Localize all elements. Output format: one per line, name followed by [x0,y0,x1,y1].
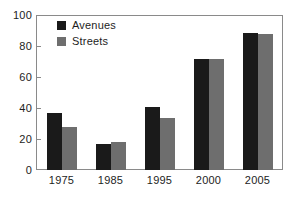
x-axis-tick-label: 1995 [140,175,180,186]
legend-label: Avenues [72,20,116,31]
bar-streets-2000 [209,59,224,170]
bar-group [135,16,184,170]
legend-swatch-icon [57,37,66,46]
bar-avenues-2000 [194,59,209,170]
y-axis-tick-mark [36,139,41,140]
legend-item: Avenues [57,19,116,32]
x-axis-tick-label: 1975 [42,175,82,186]
x-axis-tick-label: 2005 [238,175,278,186]
x-axis-tick-label: 2000 [189,175,229,186]
bar-streets-1975 [62,127,77,170]
y-axis-tick-label: 80 [0,41,32,52]
y-axis-tick-mark [36,77,41,78]
y-axis-tick-label: 0 [0,165,32,176]
chart-legend: AvenuesStreets [57,19,116,51]
y-axis-tick-label: 20 [0,134,32,145]
y-axis-tick-mark [36,15,41,16]
y-axis-tick-mark [36,108,41,109]
legend-label: Streets [72,36,108,47]
bar-group [233,16,282,170]
y-axis-tick-label: 100 [0,10,32,21]
bar-streets-1995 [160,118,175,170]
y-axis-tick-label: 60 [0,72,32,83]
x-axis-tick-label: 1985 [91,175,131,186]
bar-avenues-1985 [96,144,111,170]
legend-item: Streets [57,35,116,48]
bar-avenues-2005 [243,33,258,170]
y-axis: 020406080100 [0,0,32,200]
bar-avenues-1995 [145,107,160,170]
legend-swatch-icon [57,21,66,30]
y-axis-tick-label: 40 [0,103,32,114]
bar-streets-2005 [258,34,273,170]
bar-group [184,16,233,170]
y-axis-tick-mark [36,46,41,47]
bar-avenues-1975 [47,113,62,170]
bar-chart: 020406080100 AvenuesStreets 197519851995… [0,0,294,200]
bar-streets-1985 [111,142,126,170]
